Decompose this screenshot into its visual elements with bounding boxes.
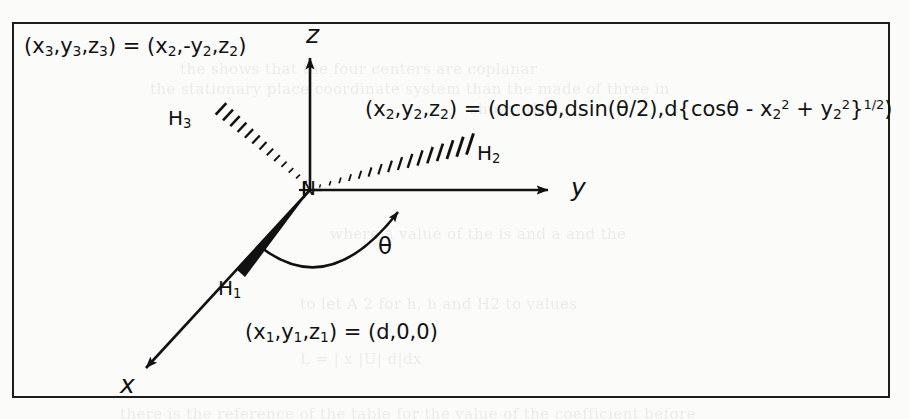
atom-label-h2-text: H2 bbox=[477, 141, 500, 165]
axis-label-y: y bbox=[571, 175, 586, 200]
atom-label-h1-text: H1 bbox=[218, 276, 241, 300]
atom-label-h2: H2 bbox=[477, 143, 500, 165]
atom-label-h1: H1 bbox=[218, 278, 241, 300]
figure-border bbox=[12, 22, 890, 398]
coordinate-label-h3: (x3,y3,z3) = (x2,-y2,z2) bbox=[24, 36, 246, 59]
axis-label-x: x bbox=[120, 372, 135, 397]
atom-label-h3-text: H3 bbox=[168, 106, 191, 130]
center-atom-label-n: N bbox=[301, 178, 316, 198]
coordinate-label-h3-text: (x3,y3,z3) = (x2,-y2,z2) bbox=[24, 34, 246, 58]
angle-label-theta: θ bbox=[378, 235, 392, 258]
coordinate-label-h1: (x1,y1,z1) = (d,0,0) bbox=[245, 322, 438, 345]
atom-label-h3: H3 bbox=[168, 108, 191, 130]
coordinate-label-h2-text: (x2,y2,z2) = (dcosθ,dsin(θ/2),d{cosθ - x… bbox=[365, 97, 893, 121]
coordinate-label-h2: (x2,y2,z2) = (dcosθ,dsin(θ/2),d{cosθ - x… bbox=[365, 98, 893, 122]
coordinate-label-h1-text: (x1,y1,z1) = (d,0,0) bbox=[245, 320, 438, 344]
axis-label-z: z bbox=[306, 22, 319, 47]
